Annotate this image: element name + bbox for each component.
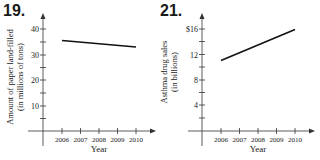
problem-number: 19. <box>3 2 25 20</box>
x-tick: 2008 <box>92 136 107 144</box>
chart-19: 19. 40 30 20 10 2006 2007 2008 2009 <box>0 0 160 160</box>
x-tick: 2006 <box>55 136 70 144</box>
y-axis-label-line2: (in millions of tons) <box>15 43 25 111</box>
x-tick: 2009 <box>270 136 285 144</box>
y-axis-label-line2: (in billions) <box>169 52 179 92</box>
x-tick: 2010 <box>288 136 303 144</box>
y-tick: 8 <box>194 76 198 85</box>
y-axis-label-line1: Amount of paper land-filled <box>5 28 15 124</box>
y-tick: 20 <box>31 76 39 85</box>
x-tick: 2008 <box>251 136 266 144</box>
x-axis-label: Year <box>91 144 108 154</box>
y-tick: 30 <box>31 51 39 60</box>
chart-21: 21. $16 12 8 4 2006 2007 2008 2009 2010 <box>160 0 320 160</box>
x-tick: 2007 <box>233 136 248 144</box>
y-axis-label-line1: Asthma drug sales <box>160 41 169 104</box>
y-tick: $16 <box>186 25 198 34</box>
y-tick: 40 <box>31 25 39 34</box>
data-line <box>62 41 136 48</box>
y-tick: 12 <box>190 51 198 60</box>
y-tick: 10 <box>31 102 39 111</box>
data-line <box>221 30 295 61</box>
x-axis-label: Year <box>250 144 267 154</box>
x-tick: 2010 <box>129 136 144 144</box>
x-tick: 2007 <box>74 136 89 144</box>
x-tick: 2006 <box>214 136 229 144</box>
y-tick: 4 <box>194 101 198 110</box>
problem-number: 21. <box>160 2 182 20</box>
chart-21-plot: $16 12 8 4 2006 2007 2008 2009 2010 Year… <box>160 0 320 160</box>
chart-19-plot: 40 30 20 10 2006 2007 2008 2009 2010 Yea… <box>0 0 160 160</box>
x-tick: 2009 <box>111 136 126 144</box>
